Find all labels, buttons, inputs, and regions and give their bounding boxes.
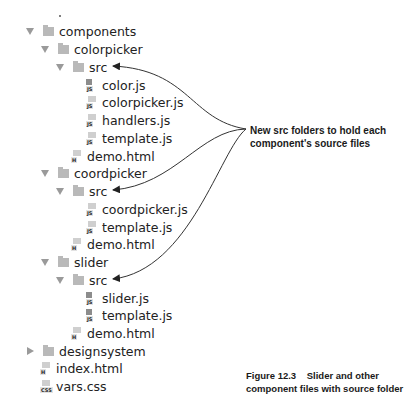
callout-line-2: component's source files	[250, 137, 386, 150]
arrow-lines	[113, 66, 246, 279]
figure-caption: Figure 12.3 Slider and other component f…	[246, 369, 403, 395]
arrow-to-coordpicker-src	[113, 129, 246, 190]
caption-line-2: component files with source folder	[246, 382, 403, 395]
callout-line-1: New src folders to hold each	[250, 124, 386, 137]
arrow-to-slider-src	[113, 129, 246, 279]
callout-arrows	[0, 0, 414, 412]
callout-text: New src folders to hold each component's…	[250, 124, 386, 150]
caption-line-1: Figure 12.3 Slider and other	[246, 369, 403, 382]
arrow-to-colorpicker-src	[113, 66, 246, 129]
